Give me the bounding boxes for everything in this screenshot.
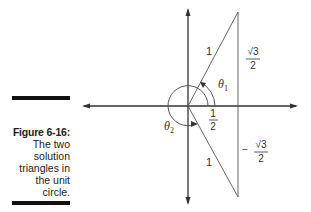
svg-text:√3: √3: [255, 139, 266, 150]
y-lower-fraction: − √3 2: [242, 139, 268, 164]
svg-text:−: −: [242, 144, 248, 155]
x-axis-right-arrow: [290, 104, 298, 109]
y-axis-bottom-arrow: [186, 197, 191, 205]
svg-text:√3: √3: [247, 46, 258, 57]
unit-circle-diagram: 1 1 θ1 θ2 1 2 √3 2 − √3 2: [0, 0, 311, 212]
upper-triangle: [188, 12, 238, 106]
y-axis-top-arrow: [186, 8, 191, 16]
hyp-upper-label: 1: [206, 45, 212, 57]
svg-text:2: 2: [250, 60, 256, 71]
theta1-label: θ1: [218, 77, 228, 93]
theta2-label: θ2: [164, 119, 174, 135]
x-value-fraction: 1 2: [209, 108, 218, 132]
svg-text:1: 1: [210, 108, 216, 119]
y-upper-fraction: √3 2: [246, 46, 260, 71]
svg-text:2: 2: [210, 121, 216, 132]
svg-text:2: 2: [258, 153, 264, 164]
hyp-lower-label: 1: [206, 156, 212, 168]
x-axis-left-arrow: [82, 104, 90, 109]
